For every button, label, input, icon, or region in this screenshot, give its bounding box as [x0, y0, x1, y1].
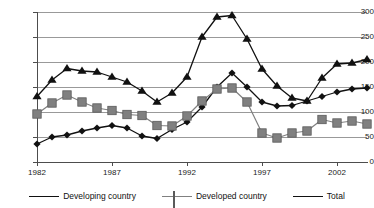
chart-container: 050100150200250300 19821987199219972002 … — [0, 0, 374, 208]
legend-label: Developing country — [63, 191, 136, 201]
x-tick-label: 1982 — [19, 168, 55, 177]
gridline — [37, 137, 367, 138]
x-tick-label: 1987 — [94, 168, 130, 177]
y-tick-label: 100 — [344, 108, 374, 116]
legend-item-total: Total — [293, 191, 345, 202]
gridline — [37, 112, 367, 113]
legend-label: Total — [327, 191, 345, 201]
x-axis-line — [37, 162, 368, 163]
y-tick-label: 0 — [344, 158, 374, 166]
x-tick-mark — [37, 162, 38, 166]
y-tick-label: 300 — [344, 8, 374, 16]
square-marker-icon — [162, 191, 192, 202]
plot-area — [37, 12, 367, 162]
legend-item-developing: Developing country — [29, 191, 136, 202]
x-tick-mark — [337, 162, 338, 166]
x-tick-mark — [112, 162, 113, 166]
chart-legend: Developing country Developed country Tot… — [0, 186, 374, 206]
y-tick-label: 50 — [344, 133, 374, 141]
y-axis-line — [37, 12, 38, 163]
y-tick-mark — [33, 87, 37, 88]
legend-label: Developed country — [196, 191, 267, 201]
legend-item-developed: Developed country — [162, 191, 267, 202]
y-tick-mark — [33, 12, 37, 13]
x-tick-label: 1992 — [169, 168, 205, 177]
y-tick-label: 200 — [344, 58, 374, 66]
y-tick-label: 150 — [344, 83, 374, 91]
diamond-marker-icon — [29, 191, 59, 202]
y-tick-mark — [33, 112, 37, 113]
x-tick-mark — [262, 162, 263, 166]
y-tick-mark — [33, 137, 37, 138]
gridline — [37, 37, 367, 38]
x-tick-mark — [187, 162, 188, 166]
y-tick-label: 250 — [344, 33, 374, 41]
y-tick-mark — [33, 37, 37, 38]
triangle-marker-icon — [293, 191, 323, 202]
gridline — [37, 62, 367, 63]
x-tick-label: 1997 — [244, 168, 280, 177]
gridline — [37, 12, 367, 13]
gridline — [37, 87, 367, 88]
y-tick-mark — [33, 62, 37, 63]
x-tick-label: 2002 — [319, 168, 355, 177]
